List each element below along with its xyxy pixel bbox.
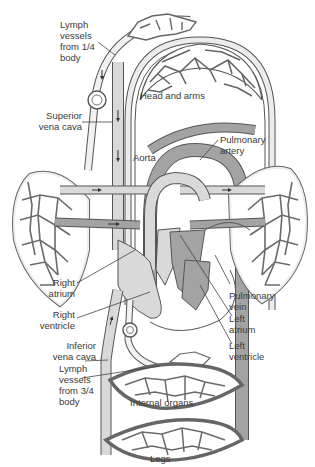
label-left-atrium: Left atrium bbox=[229, 313, 255, 335]
label-lymph-vessels-upper: Lymph vessels from 1/4 body bbox=[60, 19, 95, 63]
label-legs: Legs bbox=[150, 453, 171, 464]
label-pulmonary-vein: Pulmonary vein bbox=[229, 290, 274, 312]
label-internal-organs: Internal organs bbox=[130, 397, 193, 408]
label-lymph-vessels-lower: Lymph vessels from 3/4 body bbox=[59, 363, 94, 407]
label-right-atrium: Right atrium bbox=[30, 277, 75, 299]
label-superior-vena-cava: Superior vena cava bbox=[30, 110, 82, 132]
label-pulmonary-artery: Pulmonary artery bbox=[220, 134, 265, 156]
lower-lymph-vessel bbox=[123, 300, 210, 369]
label-right-ventricle: Right ventricle bbox=[20, 309, 75, 331]
label-aorta: Aorta bbox=[133, 152, 156, 163]
legs-capillary-bed bbox=[106, 420, 242, 460]
label-head-and-arms: Head and arms bbox=[140, 90, 205, 101]
label-inferior-vena-cava: Inferior vena cava bbox=[30, 340, 96, 362]
label-left-ventricle: Left ventricle bbox=[229, 340, 264, 362]
